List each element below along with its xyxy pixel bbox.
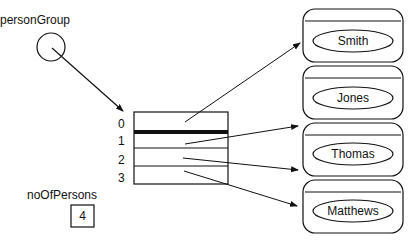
reference-circle bbox=[37, 33, 65, 61]
object-smith: Smith bbox=[303, 9, 403, 62]
object-thomas: Thomas bbox=[303, 123, 403, 176]
object-matthews: Matthews bbox=[303, 180, 403, 233]
object-name: Thomas bbox=[331, 147, 374, 161]
object-jones: Jones bbox=[303, 66, 403, 119]
counter-value: 4 bbox=[79, 209, 86, 223]
diagram-canvas: personGroup 0 1 2 3 Smith Jones Thomas bbox=[0, 0, 414, 240]
pointer-arrow-0 bbox=[185, 43, 300, 122]
index-0: 0 bbox=[118, 117, 125, 131]
array bbox=[134, 112, 228, 184]
index-1: 1 bbox=[118, 134, 125, 148]
reference-arrow bbox=[52, 48, 123, 111]
object-name: Jones bbox=[337, 91, 369, 105]
person-group-label: personGroup bbox=[0, 13, 70, 27]
counter-label: noOfPersons bbox=[27, 188, 97, 202]
index-3: 3 bbox=[118, 171, 125, 185]
object-name: Matthews bbox=[327, 204, 378, 218]
index-2: 2 bbox=[118, 153, 125, 167]
pointer-arrow-3 bbox=[184, 171, 297, 206]
object-name: Smith bbox=[338, 34, 369, 48]
pointer-arrow-2 bbox=[183, 158, 298, 170]
pointer-arrow-1 bbox=[185, 126, 298, 144]
